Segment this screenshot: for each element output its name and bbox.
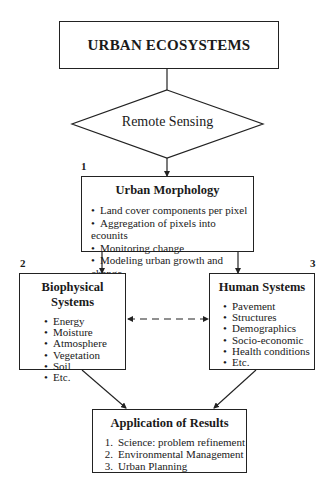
list-item: Demographics (223, 323, 314, 334)
edge-human-to-results (214, 370, 256, 408)
list-item: 3.Urban Planning (99, 460, 246, 472)
human-systems-title: Human Systems (210, 280, 314, 295)
urban-morphology-box: Urban Morphology Land cover components p… (81, 176, 254, 252)
list-item: Land cover components per pixel (91, 204, 253, 217)
human-systems-list: Pavement Structures Demographics Socio-e… (223, 301, 314, 368)
list-item: Atmosphere (44, 338, 125, 349)
list-item: Monitoring change (91, 242, 253, 255)
urban-morphology-title: Urban Morphology (82, 183, 253, 198)
application-of-results-title: Application of Results (93, 416, 246, 431)
node-number-2: 2 (20, 257, 26, 269)
list-item: Etc. (223, 357, 314, 368)
urban-ecosystems-box: URBAN ECOSYSTEMS (59, 21, 279, 69)
urban-morphology-list: Land cover components per pixel Aggregat… (91, 204, 253, 279)
list-item: Etc. (44, 372, 125, 383)
biophysical-systems-title: Biophysical Systems (20, 280, 125, 310)
list-item: 1.Science: problem refinement (99, 436, 246, 448)
biophysical-systems-box: Biophysical Systems Energy Moisture Atmo… (19, 273, 126, 370)
node-number-3: 3 (310, 257, 316, 269)
human-systems-box: Human Systems Pavement Structures Demogr… (209, 273, 315, 370)
urban-ecosystems-title: URBAN ECOSYSTEMS (88, 37, 251, 54)
biophysical-systems-list: Energy Moisture Atmosphere Vegetation So… (44, 316, 125, 383)
list-item: 2.Environmental Management (99, 448, 246, 460)
list-item: Aggregation of pixels into ecounits (91, 217, 253, 242)
application-of-results-box: Application of Results 1.Science: proble… (92, 409, 247, 473)
remote-sensing-label: Remote Sensing (72, 114, 263, 130)
application-of-results-list: 1.Science: problem refinement 2.Environm… (99, 436, 246, 472)
node-number-1: 1 (81, 160, 87, 172)
